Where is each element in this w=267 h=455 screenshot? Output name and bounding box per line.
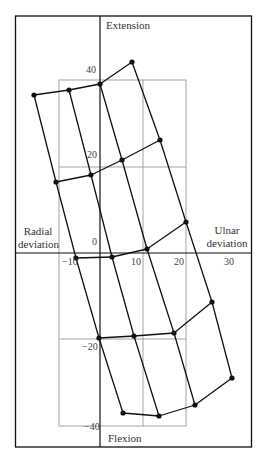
mesh-line (122, 140, 160, 160)
mesh-line (160, 140, 186, 222)
flexion-label: Flexion (108, 432, 142, 445)
mesh-line (112, 257, 134, 336)
mesh-line (147, 222, 186, 249)
tick-y-0: 0 (92, 236, 97, 247)
mesh-line (99, 338, 123, 413)
mesh-point (96, 335, 101, 340)
ulnar-deviation-label: Ulnar deviation (203, 224, 251, 250)
tick-y-40: 40 (86, 64, 96, 75)
mesh-line (174, 333, 195, 405)
mesh-line (91, 160, 122, 175)
mesh-point (183, 219, 188, 224)
mesh-line (159, 405, 195, 416)
mesh-line (134, 336, 159, 416)
mesh-point (209, 299, 214, 304)
mesh-point (88, 172, 93, 177)
ulnar-line1: Ulnar (203, 224, 251, 237)
mesh-point (120, 410, 125, 415)
mesh-point (156, 413, 161, 418)
tick-x-30: 30 (224, 256, 234, 267)
mesh-point (119, 157, 124, 162)
tick-x-20: 20 (174, 256, 184, 267)
mesh-point (144, 246, 149, 251)
ulnar-line2: deviation (203, 237, 251, 250)
mesh-point (192, 402, 197, 407)
mesh-line (34, 90, 69, 95)
mesh-point (157, 137, 162, 142)
mesh-point (31, 92, 36, 97)
mesh-point (97, 81, 102, 86)
mesh-line (69, 90, 91, 175)
mesh-point (171, 330, 176, 335)
mesh-line (76, 258, 99, 338)
mesh-line (212, 302, 232, 378)
tick-y-neg40: −40 (84, 421, 100, 432)
mesh-line (99, 336, 134, 338)
tick-y-20: 20 (87, 149, 97, 160)
radial-line1: Radial (18, 225, 58, 238)
mesh-line (132, 62, 160, 140)
extension-label: Extension (106, 19, 150, 32)
mesh-line (195, 378, 232, 405)
mesh-point (66, 87, 71, 92)
mesh-point (229, 375, 234, 380)
mesh-point (53, 179, 58, 184)
mesh-point (109, 254, 114, 259)
mesh-line (69, 84, 100, 90)
radial-deviation-label: Radial deviation (18, 225, 58, 251)
mesh-line (147, 249, 174, 333)
mesh-point (129, 59, 134, 64)
mesh-line (56, 175, 91, 182)
tick-x-10: 10 (131, 256, 141, 267)
tick-y-neg20: −20 (82, 341, 98, 352)
radial-line2: deviation (18, 238, 58, 251)
mesh-line (100, 62, 132, 84)
mesh-line (76, 257, 112, 258)
tick-x-neg10: −10 (62, 256, 78, 267)
mesh-line (100, 84, 122, 160)
mesh-point (131, 333, 136, 338)
mesh-line (174, 302, 212, 333)
mesh-line (134, 333, 174, 336)
mesh-line (34, 95, 56, 182)
mesh-line (123, 413, 159, 416)
